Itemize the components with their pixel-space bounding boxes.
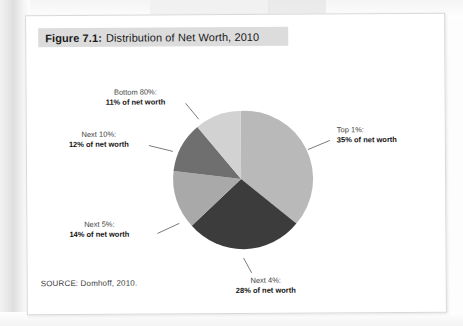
callout-bottom80-lead: Bottom 80%: (106, 87, 166, 97)
pie-chart-area: Bottom 80%: 11% of net worth Next 10%: 1… (26, 44, 446, 282)
callout-next5-value: 14% of net worth (69, 230, 129, 240)
callout-top1-value: 35% of net worth (337, 135, 397, 145)
callout-next10-lead: Next 10%: (69, 130, 129, 140)
figure-number-label: Figure 7.1: (45, 31, 102, 43)
callout-next5-lead: Next 5%: (69, 220, 129, 230)
callout-bottom80: Bottom 80%: 11% of net worth (106, 87, 166, 108)
figure-page: Figure 7.1: Distribution of Net Worth, 2… (25, 13, 447, 316)
page-content: Figure 7.1: Distribution of Net Worth, 2… (26, 14, 446, 315)
callout-next4: Next 4%: 28% of net worth (236, 276, 296, 297)
screenshot-root: Figure 7.1: Distribution of Net Worth, 2… (0, 0, 463, 326)
callout-next10-value: 12% of net worth (69, 140, 129, 150)
callout-next4-value: 28% of net worth (236, 286, 296, 296)
callout-top1-lead: Top 1%: (337, 125, 397, 135)
pie-chart-svg (26, 44, 446, 282)
leader-line-top1 (308, 140, 330, 149)
leader-line-bottom80 (186, 103, 199, 119)
leader-line-next10 (149, 145, 173, 151)
figure-title: Distribution of Net Worth, 2010 (106, 30, 259, 43)
callout-next10: Next 10%: 12% of net worth (69, 130, 129, 151)
callout-bottom80-value: 11% of net worth (106, 98, 166, 108)
callout-next5: Next 5%: 14% of net worth (69, 220, 129, 241)
leader-line-next4 (244, 258, 252, 273)
callout-top1: Top 1%: 35% of net worth (337, 125, 397, 146)
callout-next4-lead: Next 4%: (236, 276, 296, 286)
figure-source: SOURCE: Domhoff, 2010. (41, 279, 138, 289)
leader-line-next5 (157, 223, 179, 233)
